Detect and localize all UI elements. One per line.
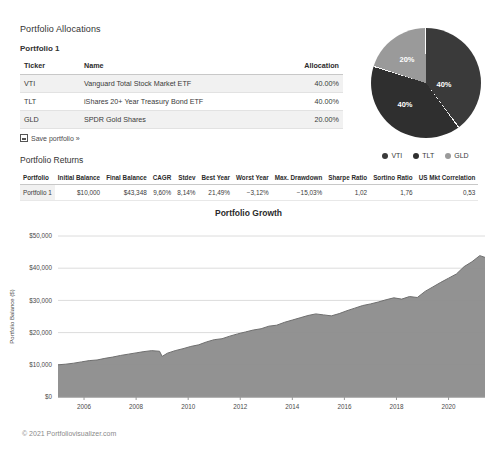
- allocation-ticker: GLD: [20, 111, 80, 129]
- allocations-header-ticker: Ticker: [20, 58, 80, 75]
- portfolio-returns-section: Portfolio Returns Portfolio Initial Bala…: [20, 155, 478, 201]
- returns-header-initial-balance: Initial Balance: [55, 172, 103, 185]
- save-disk-icon: [20, 134, 28, 142]
- portfolio-growth-chart: Portfolio Growth $0$10,000$20,000$30,000…: [0, 205, 497, 427]
- x-axis-tick-label: 2012: [233, 403, 248, 410]
- returns-header-sortino-ratio: Sortino Ratio: [370, 172, 416, 185]
- growth-chart-svg: $0$10,000$20,000$30,000$40,000$50,000Por…: [0, 218, 497, 423]
- allocations-table: Ticker Name Allocation VTI Vanguard Tota…: [20, 58, 343, 129]
- portfolio-allocations-section: Portfolio Allocations Portfolio 1 Ticker…: [20, 24, 350, 142]
- returns-cell-worst-year: −3,12%: [233, 185, 272, 201]
- portfolio-1-label: Portfolio 1: [20, 44, 350, 53]
- x-axis-tick-label: 2014: [285, 403, 300, 410]
- pie-graphic: 40% 40% 20%: [371, 28, 481, 138]
- returns-cell-final-balance: $43,348: [103, 185, 150, 201]
- returns-header-portfolio: Portfolio: [20, 172, 55, 185]
- x-axis-tick-label: 2010: [181, 403, 196, 410]
- returns-header-us-mkt-correlation: US Mkt Correlation: [416, 172, 479, 185]
- returns-cell-best-year: 21,49%: [198, 185, 233, 201]
- allocation-value: 40.00%: [288, 75, 343, 93]
- returns-header-row: Portfolio Initial Balance Final Balance …: [20, 172, 478, 185]
- returns-header-max-drawdown: Max. Drawdown: [272, 172, 326, 185]
- y-axis-tick-label: $0: [45, 393, 53, 400]
- allocation-pie-chart: 40% 40% 20% VTI TLT GLD: [358, 28, 493, 164]
- allocations-header-allocation: Allocation: [288, 58, 343, 75]
- save-portfolio-label: Save portfolio »: [31, 135, 80, 142]
- y-axis-tick-label: $40,000: [29, 264, 52, 271]
- returns-cell-sortino-ratio: 1,76: [370, 185, 416, 201]
- table-row: Portfolio 1 $10,000 $43,348 9,60% 8,14% …: [20, 185, 478, 201]
- y-axis-tick-label: $20,000: [29, 329, 52, 336]
- y-axis-title: Portfolio Balance ($): [9, 289, 15, 343]
- save-portfolio-link[interactable]: Save portfolio »: [20, 134, 350, 142]
- allocation-name: iShares 20+ Year Treasury Bond ETF: [80, 93, 288, 111]
- returns-cell-portfolio: Portfolio 1: [20, 185, 55, 201]
- y-axis-tick-label: $10,000: [29, 361, 52, 368]
- returns-section-title: Portfolio Returns: [20, 155, 478, 165]
- x-axis-tick-label: 2006: [77, 403, 92, 410]
- allocations-section-title: Portfolio Allocations: [20, 24, 350, 34]
- returns-cell-initial-balance: $10,000: [55, 185, 103, 201]
- pie-slice-label-vti: 40%: [437, 80, 452, 89]
- x-axis-tick-label: 2008: [129, 403, 144, 410]
- returns-cell-stdev: 8,14%: [174, 185, 198, 201]
- allocation-ticker: VTI: [20, 75, 80, 93]
- table-row: VTI Vanguard Total Stock Market ETF 40.0…: [20, 75, 343, 93]
- table-row: GLD SPDR Gold Shares 20.00%: [20, 111, 343, 129]
- allocation-value: 40.00%: [288, 93, 343, 111]
- pie-slice-label-gld: 20%: [400, 55, 415, 64]
- returns-header-final-balance: Final Balance: [103, 172, 150, 185]
- x-axis-tick-label: 2018: [389, 403, 404, 410]
- returns-table: Portfolio Initial Balance Final Balance …: [20, 172, 478, 201]
- growth-chart-title: Portfolio Growth: [0, 208, 497, 218]
- x-axis-tick-label: 2020: [442, 403, 457, 410]
- allocation-name: Vanguard Total Stock Market ETF: [80, 75, 288, 93]
- allocations-header-name: Name: [80, 58, 288, 75]
- returns-header-best-year: Best Year: [198, 172, 233, 185]
- y-axis-tick-label: $30,000: [29, 297, 52, 304]
- table-row: TLT iShares 20+ Year Treasury Bond ETF 4…: [20, 93, 343, 111]
- pie-slice-label-tlt: 40%: [398, 100, 413, 109]
- returns-header-stdev: Stdev: [174, 172, 198, 185]
- x-axis-tick-label: 2016: [337, 403, 352, 410]
- returns-header-worst-year: Worst Year: [233, 172, 272, 185]
- returns-cell-sharpe-ratio: 1,02: [325, 185, 370, 201]
- y-axis-tick-label: $50,000: [29, 232, 52, 239]
- returns-cell-cagr: 9,60%: [150, 185, 175, 201]
- allocation-name: SPDR Gold Shares: [80, 111, 288, 129]
- allocation-value: 20.00%: [288, 111, 343, 129]
- returns-cell-us-mkt-correlation: 0,53: [416, 185, 479, 201]
- returns-header-cagr: CAGR: [150, 172, 175, 185]
- allocation-ticker: TLT: [20, 93, 80, 111]
- returns-header-sharpe-ratio: Sharpe Ratio: [325, 172, 370, 185]
- allocations-header-row: Ticker Name Allocation: [20, 58, 343, 75]
- returns-cell-max-drawdown: −15,03%: [272, 185, 326, 201]
- footer-copyright: © 2021 Portfoliovisualizer.com: [22, 430, 116, 437]
